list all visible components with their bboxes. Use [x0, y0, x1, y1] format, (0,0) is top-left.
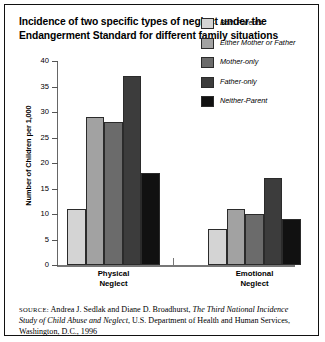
bar[interactable]	[264, 178, 283, 265]
legend-item[interactable]: Either Mother or Father	[201, 37, 321, 57]
y-tick-label: 20	[19, 158, 49, 167]
source-note: SOURCE: Andrea J. Sedlak and Diane D. Br…	[19, 304, 307, 338]
source-label: SOURCE:	[19, 306, 49, 313]
y-axis-label: Number of Children per 1,000	[24, 81, 33, 231]
y-tick-mark	[52, 112, 58, 113]
bar[interactable]	[104, 122, 123, 265]
legend-item[interactable]: Both Parents	[201, 17, 321, 37]
bar-group	[67, 61, 160, 265]
x-axis-group-label-line: Emotional	[200, 269, 310, 279]
y-tick-mark	[52, 138, 58, 139]
y-tick-label: 5	[19, 235, 49, 244]
y-tick-mark	[52, 61, 58, 62]
y-tick-label: 15	[19, 184, 49, 193]
legend-label: Mother-only	[220, 57, 258, 66]
x-axis-group-label-line: Physical	[59, 269, 169, 279]
x-axis-group-separator-tick	[173, 258, 174, 266]
bar[interactable]	[245, 214, 264, 265]
legend-label: Either Mother or Father	[220, 38, 295, 47]
x-axis-line	[57, 265, 295, 267]
y-tick-label: 0	[19, 260, 49, 269]
y-tick-mark	[52, 189, 58, 190]
figure-frame: Incidence of two specific types of negle…	[4, 4, 319, 336]
legend-swatch	[201, 77, 214, 88]
legend-label: Father-only	[220, 77, 257, 86]
legend-label: Neither-Parent	[220, 96, 267, 105]
x-axis-group-label-line: Neglect	[59, 279, 169, 289]
legend-item[interactable]: Mother-only	[201, 56, 321, 76]
bar[interactable]	[67, 209, 86, 265]
legend-label: Both Parents	[220, 18, 262, 27]
bar[interactable]	[86, 117, 105, 265]
y-tick-label: 30	[19, 107, 49, 116]
y-tick-label: 40	[19, 56, 49, 65]
y-tick-label: 10	[19, 209, 49, 218]
legend-swatch	[201, 38, 214, 49]
legend-item[interactable]: Father-only	[201, 76, 321, 96]
bar[interactable]	[208, 229, 227, 265]
bar[interactable]	[282, 219, 301, 265]
chart-legend: Both ParentsEither Mother or FatherMothe…	[201, 17, 321, 115]
y-tick-label: 35	[19, 82, 49, 91]
y-tick-mark	[52, 265, 58, 266]
source-text-1: Andrea J. Sedlak and Diane D. Broadhurst…	[49, 305, 193, 314]
x-axis-group-label: PhysicalNeglect	[59, 269, 169, 288]
y-tick-mark	[52, 163, 58, 164]
legend-swatch	[201, 57, 214, 68]
y-tick-mark	[52, 87, 58, 88]
legend-item[interactable]: Neither-Parent	[201, 95, 321, 115]
y-tick-mark	[52, 240, 58, 241]
y-tick-label: 25	[19, 133, 49, 142]
bar[interactable]	[227, 209, 246, 265]
y-tick-mark	[52, 214, 58, 215]
bar[interactable]	[123, 76, 142, 265]
x-axis-group-label: EmotionalNeglect	[200, 269, 310, 288]
x-axis-group-label-line: Neglect	[200, 279, 310, 289]
bar[interactable]	[141, 173, 160, 265]
legend-swatch	[201, 18, 214, 29]
legend-swatch	[201, 96, 214, 107]
